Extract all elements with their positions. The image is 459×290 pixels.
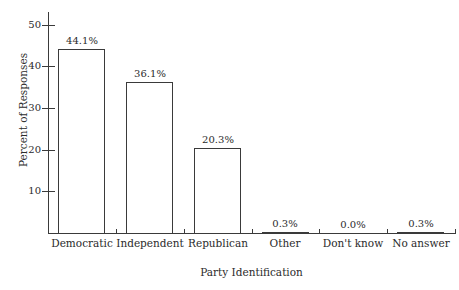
- y-tick-mark: [42, 66, 49, 67]
- y-tick-mark-inner: [49, 191, 55, 192]
- y-tick-mark: [42, 191, 49, 192]
- x-category-label: Other: [251, 237, 319, 250]
- bar: [194, 148, 241, 233]
- y-tick-mark: [42, 108, 49, 109]
- x-category-label: Don't know: [319, 237, 387, 250]
- y-tick-mark: [42, 150, 49, 151]
- x-tick-mark: [252, 229, 253, 234]
- y-tick-mark-inner: [49, 150, 55, 151]
- bar: [262, 232, 309, 233]
- y-tick-label: 30: [3, 103, 41, 113]
- bar: [126, 82, 173, 233]
- bar: [397, 232, 444, 233]
- x-tick-mark: [184, 229, 185, 234]
- x-tick-mark: [455, 229, 456, 234]
- bar: [58, 49, 105, 233]
- y-tick-label: 40: [3, 61, 41, 71]
- x-category-label: Republican: [184, 237, 252, 250]
- y-tick-mark: [42, 25, 49, 26]
- bar-value-label: 0.3%: [387, 218, 455, 229]
- bar-value-label: 0.0%: [319, 219, 387, 230]
- x-tick-mark: [116, 229, 117, 234]
- y-tick-mark-inner: [49, 25, 55, 26]
- y-tick-label: 10: [3, 186, 41, 196]
- x-tick-mark: [48, 229, 49, 234]
- bar-value-label: 44.1%: [48, 35, 116, 46]
- y-tick-label: 20: [3, 145, 41, 155]
- y-tick-mark-inner: [49, 108, 55, 109]
- x-category-label: Democratic: [48, 237, 116, 250]
- y-tick-mark-inner: [49, 66, 55, 67]
- bar-chart: Percent of Responses Party Identificatio…: [0, 0, 459, 290]
- x-axis-title: Party Identification: [48, 266, 455, 278]
- y-tick-label: 50: [3, 20, 41, 30]
- x-category-label: No answer: [387, 237, 455, 250]
- x-category-label: Independent: [116, 237, 184, 250]
- bar-value-label: 36.1%: [116, 68, 184, 79]
- x-tick-mark: [387, 229, 388, 234]
- bar-value-label: 20.3%: [184, 134, 252, 145]
- bar-value-label: 0.3%: [251, 218, 319, 229]
